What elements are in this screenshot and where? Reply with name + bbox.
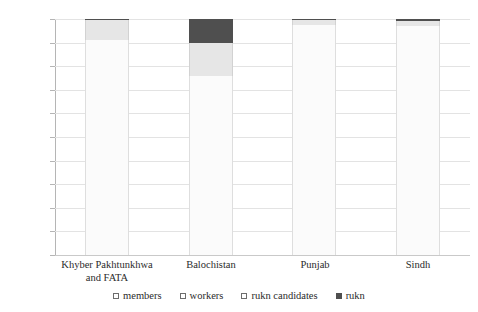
legend-swatch-icon [180, 293, 186, 299]
bar-segment-rukn-candidates [85, 20, 129, 40]
plot-area [55, 19, 470, 255]
stacked-bar [85, 19, 129, 255]
legend-label: rukn [346, 291, 365, 302]
legend-swatch-icon [113, 293, 119, 299]
chart-legend: membersworkersrukn candidatesrukn [0, 291, 478, 302]
category-label-line: Punjab [263, 259, 367, 272]
x-axis-category-label: Balochistan [159, 259, 263, 272]
stacked-bar [292, 19, 336, 255]
x-axis-category-label: Punjab [263, 259, 367, 272]
y-axis-tick-group: 100%90%80%70%60%50%40%30%20%10%0% [0, 0, 55, 236]
category-label-line: Balochistan [159, 259, 263, 272]
x-axis-category-label: Khyber Pakhtunkhwaand FATA [55, 259, 159, 284]
chart-screenshot: 100%90%80%70%60%50%40%30%20%10%0% Khyber… [0, 0, 478, 312]
gridline [55, 255, 470, 256]
category-label-line: Khyber Pakhtunkhwa [55, 259, 159, 272]
legend-item[interactable]: rukn [336, 291, 365, 302]
legend-item[interactable]: rukn candidates [241, 291, 317, 302]
legend-swatch-icon [336, 293, 342, 299]
legend-swatch-icon [241, 293, 247, 299]
bar-segment-members [396, 26, 440, 255]
category-label-line: Sindh [366, 259, 470, 272]
bar-segment-rukn [189, 19, 233, 43]
bar-segment-members [189, 76, 233, 255]
legend-item[interactable]: workers [180, 291, 224, 302]
x-axis-category-label: Sindh [366, 259, 470, 272]
legend-label: rukn candidates [251, 291, 317, 302]
stacked-bar [396, 19, 440, 255]
stacked-bar [189, 19, 233, 255]
bar-segment-members [85, 40, 129, 255]
legend-label: members [123, 291, 162, 302]
bar-segment-members [292, 25, 336, 255]
legend-label: workers [190, 291, 224, 302]
bar-segment-rukn-candidates [189, 43, 233, 76]
x-axis-category-labels: Khyber Pakhtunkhwaand FATABalochistanPun… [55, 259, 470, 289]
legend-item[interactable]: members [113, 291, 162, 302]
category-label-line: and FATA [55, 272, 159, 285]
